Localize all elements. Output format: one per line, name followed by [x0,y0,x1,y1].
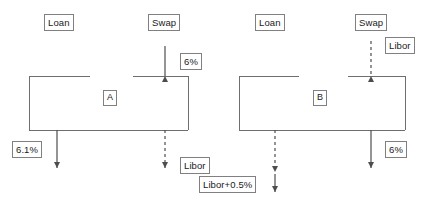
label-rate-b-swap-pay: Libor [385,37,415,54]
label-party-b: B [313,90,327,106]
label-loan-right: Loan [255,14,285,31]
label-rate-a-swap-receive: Libor [180,157,210,174]
label-rate-b-loan-pay: Libor+0.5% [199,176,256,193]
label-swap-right: Swap [355,14,387,31]
label-loan-left: Loan [44,14,74,31]
label-rate-a-swap-pay: 6% [180,53,202,70]
label-rate-b-swap-receive: 6% [385,141,407,158]
label-rate-a-loan-pay: 6.1% [12,141,42,158]
label-swap-left: Swap [148,14,180,31]
diagram-vector-layer [0,0,430,204]
label-party-a: A [103,90,117,106]
swap-diagram-canvas: Loan Swap 6% A 6.1% Libor Loan Swap Libo… [0,0,430,204]
